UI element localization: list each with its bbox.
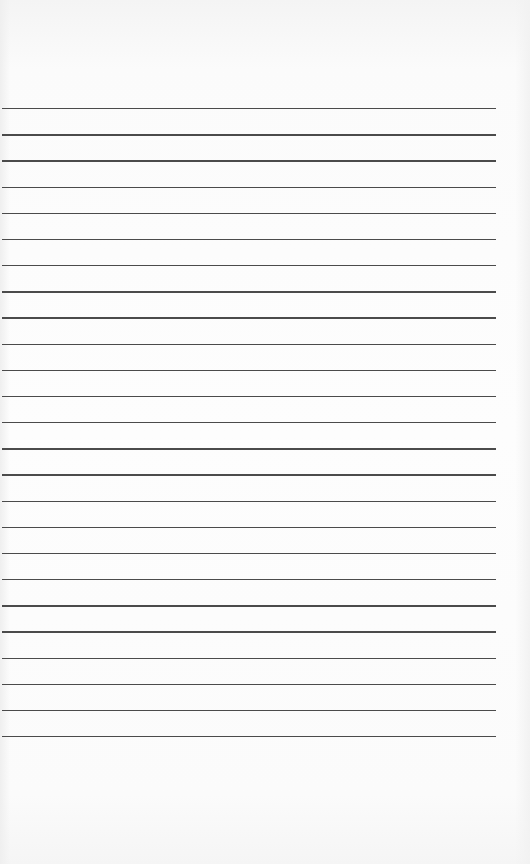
ruled-line [2, 631, 496, 632]
ruled-line [2, 370, 496, 371]
ruled-line [2, 474, 496, 475]
ruled-line [2, 579, 496, 580]
ruled-line [2, 422, 496, 423]
ruled-line [2, 108, 496, 109]
ruled-line [2, 658, 496, 659]
ruled-line [2, 396, 496, 397]
ruled-line [2, 134, 496, 135]
ruled-line [2, 213, 496, 214]
ruled-line [2, 265, 496, 266]
ruled-line [2, 291, 496, 292]
ruled-line [2, 239, 496, 240]
ruled-line [2, 710, 496, 711]
ruled-line [2, 344, 496, 345]
ruled-line [2, 317, 496, 318]
ruled-line [2, 605, 496, 606]
ruled-line [2, 684, 496, 685]
ruled-line [2, 527, 496, 528]
ruled-line [2, 160, 496, 161]
lined-paper-sheet [0, 0, 530, 864]
ruled-line [2, 448, 496, 449]
ruled-line [2, 553, 496, 554]
ruled-line [2, 736, 496, 737]
ruled-line [2, 187, 496, 188]
ruled-line [2, 501, 496, 502]
